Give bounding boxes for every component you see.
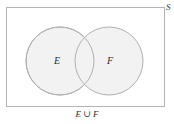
figure-caption: E ∪ F (0, 110, 174, 119)
set-label-f: F (107, 56, 113, 66)
set-label-e: E (54, 56, 60, 66)
venn-diagram-figure: S E F E ∪ F (0, 0, 174, 124)
venn-circles-group (0, 0, 174, 124)
